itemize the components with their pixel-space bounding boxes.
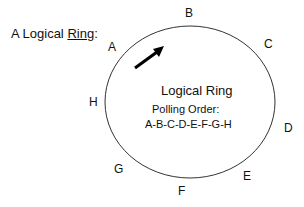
node-g: G <box>114 162 123 176</box>
node-f: F <box>178 184 185 198</box>
node-a: A <box>108 40 116 54</box>
node-d: D <box>284 121 293 135</box>
polling-order-value: A-B-C-D-E-F-G-H <box>145 118 232 130</box>
ring-label: Logical Ring <box>161 83 233 98</box>
node-e: E <box>243 169 251 183</box>
ring-circle <box>105 26 275 178</box>
node-h: H <box>89 95 98 109</box>
node-c: C <box>264 37 273 51</box>
node-b: B <box>185 6 193 20</box>
direction-arrow-icon <box>135 46 164 68</box>
polling-order-label: Polling Order: <box>152 103 219 115</box>
